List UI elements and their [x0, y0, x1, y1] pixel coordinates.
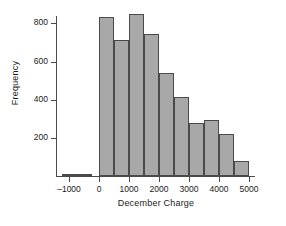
x-axis-tick: [249, 177, 250, 182]
y-axis-tick-label: 200: [22, 133, 48, 142]
x-axis-title: December Charge: [57, 198, 255, 208]
y-axis-tick: [51, 62, 56, 63]
histogram-bar: [144, 34, 159, 176]
x-axis-tick: [69, 177, 70, 182]
y-axis-tick-label: 600: [22, 57, 48, 66]
histogram-bar: [219, 134, 234, 176]
y-axis-title: Frequency: [10, 43, 20, 123]
histogram-bar: [129, 14, 144, 176]
y-axis-tick: [51, 100, 56, 101]
histogram-bar: [174, 97, 189, 176]
histogram-bar: [189, 123, 204, 176]
x-axis-line: [57, 176, 255, 177]
y-axis-line: [56, 16, 57, 177]
y-axis-tick-label: 800: [22, 18, 48, 27]
x-axis-tick: [159, 177, 160, 182]
y-axis-tick: [51, 23, 56, 24]
histogram-bar: [159, 73, 174, 176]
histogram-figure: 200400600800 –1000010002000300040005000 …: [0, 0, 286, 226]
histogram-bar: [204, 120, 219, 176]
x-axis-tick: [129, 177, 130, 182]
histogram-bar: [114, 40, 129, 176]
x-axis-tick: [189, 177, 190, 182]
histogram-bar: [99, 17, 114, 176]
x-axis-tick: [219, 177, 220, 182]
plot-area: [57, 10, 255, 176]
y-axis-tick: [51, 138, 56, 139]
x-axis-tick-label: 5000: [229, 184, 269, 195]
y-axis-tick-label: 400: [22, 95, 48, 104]
x-axis-tick: [99, 177, 100, 182]
histogram-bar: [234, 161, 249, 176]
